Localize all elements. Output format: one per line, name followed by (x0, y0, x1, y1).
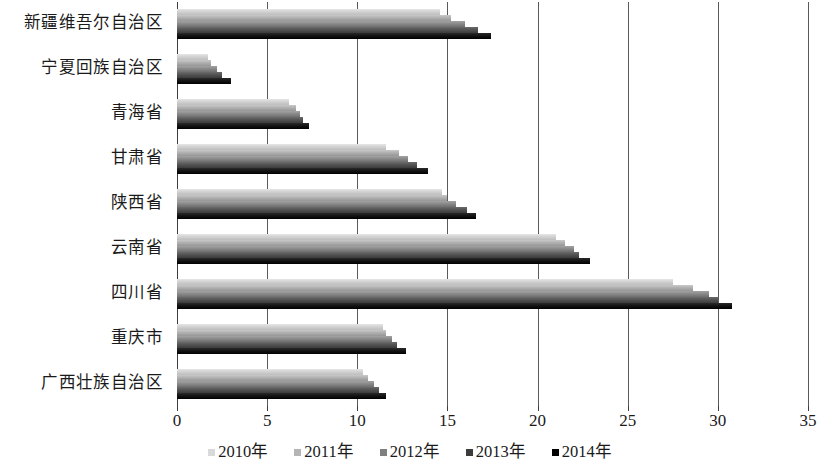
bar-2014年-宁夏回族自治区 (177, 78, 231, 84)
x-axis: 05101520253035 (177, 406, 808, 440)
x-tick-label: 0 (173, 412, 182, 429)
gridline-35 (808, 2, 809, 406)
bar-2014年-甘肃省 (177, 168, 428, 174)
bar-2014年-广西壮族自治区 (177, 393, 386, 399)
legend-item-2012年[interactable]: 2012年 (380, 444, 440, 461)
x-tick-label: 20 (529, 412, 546, 429)
bar-2014年-云南省 (177, 258, 590, 264)
legend-swatch-icon (466, 449, 473, 456)
legend-swatch-icon (208, 449, 215, 456)
legend-swatch-icon (552, 449, 559, 456)
legend-swatch-icon (380, 449, 387, 456)
legend-label: 2010年 (218, 444, 268, 461)
legend-item-2010年[interactable]: 2010年 (208, 444, 268, 461)
bar-group (177, 234, 808, 264)
category-label: 新疆维吾尔自治区 (24, 15, 163, 32)
bar-2014年-重庆市 (177, 348, 406, 354)
legend: 2010年2011年2012年2013年2014年 (0, 441, 820, 463)
category-label: 青海省 (111, 105, 163, 122)
legend-swatch-icon (294, 449, 301, 456)
x-tick-label: 15 (439, 412, 456, 429)
x-tick-label: 25 (619, 412, 636, 429)
bar-group (177, 99, 808, 129)
bar-2014年-新疆维吾尔自治区 (177, 33, 491, 39)
x-tick-label: 30 (709, 412, 726, 429)
bar-group (177, 9, 808, 39)
bar-group (177, 144, 808, 174)
bar-2014年-陕西省 (177, 213, 476, 219)
legend-label: 2012年 (390, 444, 440, 461)
legend-label: 2014年 (562, 444, 612, 461)
legend-label: 2011年 (304, 444, 353, 461)
bar-group (177, 189, 808, 219)
bars-container (177, 2, 808, 406)
bar-group (177, 279, 808, 309)
bar-2014年-青海省 (177, 123, 309, 129)
category-label: 云南省 (111, 240, 163, 257)
legend-item-2011年[interactable]: 2011年 (294, 444, 353, 461)
bar-group (177, 54, 808, 84)
category-label: 广西壮族自治区 (41, 375, 163, 392)
category-label: 重庆市 (111, 330, 163, 347)
category-label: 陕西省 (111, 195, 163, 212)
category-label: 宁夏回族自治区 (41, 60, 163, 77)
category-axis-labels: 新疆维吾尔自治区宁夏回族自治区青海省甘肃省陕西省云南省四川省重庆市广西壮族自治区 (0, 2, 171, 406)
bar-chart: 新疆维吾尔自治区宁夏回族自治区青海省甘肃省陕西省云南省四川省重庆市广西壮族自治区… (0, 0, 820, 467)
bar-2014年-四川省 (177, 303, 732, 309)
legend-item-2014年[interactable]: 2014年 (552, 444, 612, 461)
x-tick-label: 10 (349, 412, 366, 429)
legend-label: 2013年 (476, 444, 526, 461)
legend-item-2013年[interactable]: 2013年 (466, 444, 526, 461)
bar-group (177, 324, 808, 354)
x-tick-label: 5 (263, 412, 272, 429)
x-tick-label: 35 (800, 412, 817, 429)
plot-area (177, 2, 808, 406)
category-label: 四川省 (111, 285, 163, 302)
category-label: 甘肃省 (111, 150, 163, 167)
bar-group (177, 369, 808, 399)
